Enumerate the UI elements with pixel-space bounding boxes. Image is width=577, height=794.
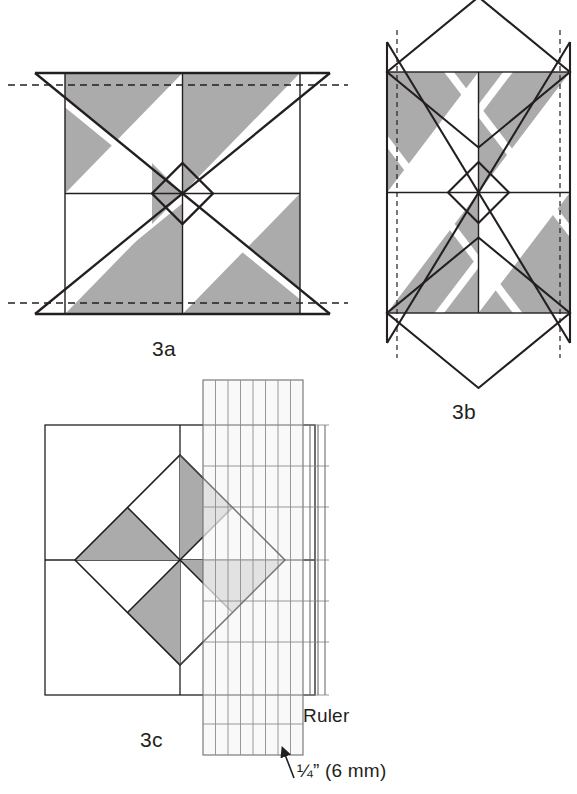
figure-3a: [8, 73, 348, 314]
ruler-label: Ruler: [303, 705, 349, 727]
seam-allowance-arrow: [284, 752, 294, 778]
figure-page: 3a 3b 3c Ruler ¼” (6 mm): [0, 0, 577, 794]
figure-3c: [45, 380, 329, 778]
arrow-line: [284, 752, 294, 778]
shade-3a-tr: [183, 73, 301, 194]
diagram-canvas: [0, 0, 577, 794]
ruler[interactable]: [203, 380, 329, 755]
shade-3a-tl: [65, 73, 183, 194]
figure-label-3a: 3a: [152, 337, 176, 361]
figure-label-3b: 3b: [452, 400, 476, 424]
figure-label-3c: 3c: [140, 728, 163, 752]
figure-3b: [387, 0, 570, 388]
seam-allowance-label: ¼” (6 mm): [297, 760, 386, 782]
